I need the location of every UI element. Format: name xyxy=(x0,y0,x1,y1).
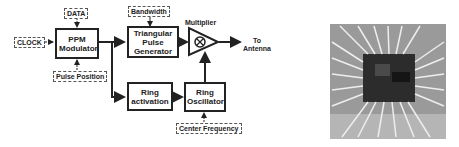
triangular-pulse-generator-block: Triangular Pulse Generator xyxy=(127,26,179,58)
ring-activation-block: Ring activation xyxy=(127,82,173,111)
multiplier-label: Multiplier xyxy=(185,19,216,27)
ring-oscillator-block: Ring Oscillator xyxy=(184,82,226,112)
output-label: To Antenna xyxy=(242,37,272,53)
clock-input: CLOCK xyxy=(14,37,45,48)
chip-photo xyxy=(330,24,446,139)
ppm-modulator-block: PPM Modulator xyxy=(55,28,99,59)
bandwidth-input: Bandwidth xyxy=(128,6,170,17)
multiplier-triangle xyxy=(189,28,218,55)
ring-activation-label: Ring activation xyxy=(130,88,170,106)
ring-oscillator-label: Ring Oscillator xyxy=(187,88,223,106)
center-frequency-input: Center Frequency xyxy=(176,123,242,134)
pulse-position-input: Pulse Position xyxy=(53,71,107,82)
chip-die-image xyxy=(330,24,446,139)
tpg-label: Triangular Pulse Generator xyxy=(130,29,176,56)
data-input: DATA xyxy=(64,8,88,19)
ppm-modulator-label: PPM Modulator xyxy=(59,35,95,53)
